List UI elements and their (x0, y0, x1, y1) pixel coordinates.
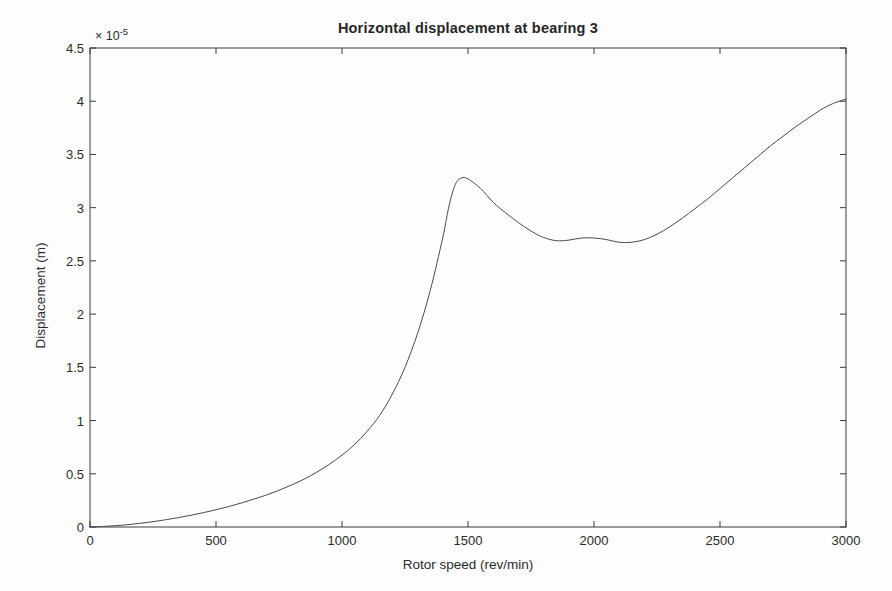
y-tick-label: 4 (42, 94, 84, 109)
figure-canvas: Horizontal displacement at bearing 3 × 1… (0, 0, 892, 591)
x-tick-label: 1000 (328, 533, 357, 548)
y-tick-label: 2.5 (42, 253, 84, 268)
data-series-group (90, 99, 846, 527)
x-tick-marks (90, 48, 846, 527)
x-tick-label: 500 (205, 533, 227, 548)
y-tick-label: 0.5 (42, 466, 84, 481)
x-tick-label: 3000 (832, 533, 861, 548)
y-tick-label: 3 (42, 200, 84, 215)
x-tick-label: 2500 (706, 533, 735, 548)
y-tick-label: 1 (42, 413, 84, 428)
x-axis-title: Rotor speed (rev/min) (90, 557, 846, 572)
y-tick-label: 2 (42, 307, 84, 322)
y-tick-label: 3.5 (42, 147, 84, 162)
plot-area (0, 0, 892, 591)
y-tick-marks (90, 48, 846, 527)
axes-box (90, 48, 846, 527)
x-tick-label: 1500 (454, 533, 483, 548)
x-tick-label: 0 (86, 533, 93, 548)
data-series-line (90, 99, 846, 527)
y-axis-title: Displacement (m) (33, 176, 48, 416)
y-tick-label: 4.5 (42, 41, 84, 56)
y-tick-label: 1.5 (42, 360, 84, 375)
x-tick-label: 2000 (580, 533, 609, 548)
